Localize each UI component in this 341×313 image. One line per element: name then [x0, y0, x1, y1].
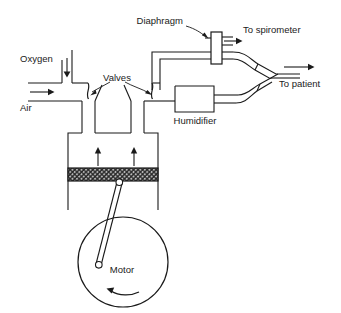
- label-to-patient: To patient: [279, 78, 321, 89]
- label-valves: Valves: [103, 72, 131, 83]
- diaphragm-feed-tube: [152, 52, 211, 90]
- piston: [68, 168, 158, 181]
- label-humidifier: Humidifier: [174, 115, 217, 126]
- cylinder-up-arrow-right: [131, 147, 137, 166]
- label-motor: Motor: [110, 264, 134, 275]
- diaphragm-leader-line: [186, 26, 209, 38]
- motor-rotation-arrow: [107, 288, 140, 295]
- cylinder-manifold: [82, 85, 144, 133]
- oxygen-inlet-arrow: [64, 58, 71, 78]
- upper-patient-tube: [233, 52, 258, 70]
- spirometer-outlet-arrow: [224, 38, 243, 44]
- air-inlet-arrow: [30, 89, 55, 95]
- label-to-spirometer: To spirometer: [243, 24, 301, 35]
- humidifier-box: [175, 86, 214, 112]
- label-oxygen: Oxygen: [20, 53, 53, 64]
- lower-patient-tube: [236, 84, 260, 103]
- cylinder-up-arrow-left: [95, 147, 101, 166]
- inlet-valve: [87, 83, 89, 99]
- label-diaphragm: Diaphragm: [137, 15, 184, 26]
- ventilator-diagram-container: Oxygen Air Valves Diaphragm To spiromete…: [0, 0, 341, 313]
- label-air: Air: [20, 102, 32, 113]
- patient-outlet-arrow: [284, 64, 315, 70]
- humidifier-tubes: [214, 95, 238, 103]
- valves-leader-lines: [90, 82, 152, 96]
- ventilator-schematic: Oxygen Air Valves Diaphragm To spiromete…: [0, 0, 341, 313]
- motor-wheel: [78, 217, 168, 307]
